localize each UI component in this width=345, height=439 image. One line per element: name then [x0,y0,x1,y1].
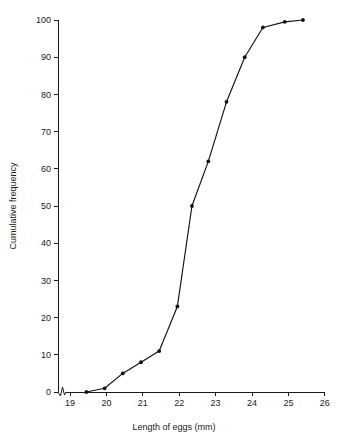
data-point [175,305,179,309]
chart-plot-area: 0102030405060708090100 1920212223242526 … [0,0,345,439]
y-tick-label-90: 90 [41,52,51,62]
y-tick-label-10: 10 [41,350,51,360]
y-tick-label-100: 100 [36,15,51,25]
data-point [206,159,210,163]
y-tick-label-0: 0 [46,387,51,397]
data-point [243,55,247,59]
data-point [84,390,88,394]
x-tick-label-19: 19 [65,398,75,408]
x-tick-label-24: 24 [247,398,257,408]
y-tick-label-40: 40 [41,238,51,248]
x-axis-ticks: 1920212223242526 [65,392,330,408]
x-tick-label-25: 25 [283,398,293,408]
data-point [283,20,287,24]
x-tick-label-20: 20 [101,398,111,408]
x-tick-label-23: 23 [211,398,221,408]
data-point [190,204,194,208]
x-axis-break-icon [58,387,66,396]
y-axis-ticks: 0102030405060708090100 [36,15,58,397]
data-point [139,360,143,364]
data-point [157,349,161,353]
data-point [103,386,107,390]
data-point [225,100,229,104]
y-tick-label-80: 80 [41,90,51,100]
x-tick-label-22: 22 [174,398,184,408]
y-axis-title: Cumulative frequency [8,162,18,250]
cumulative-frequency-chart: 0102030405060708090100 1920212223242526 … [0,0,345,439]
data-series-points [84,18,304,394]
data-series-line [86,20,303,392]
data-point [261,26,265,30]
y-tick-label-50: 50 [41,201,51,211]
data-point [301,18,305,22]
x-tick-label-21: 21 [138,398,148,408]
y-tick-label-60: 60 [41,164,51,174]
x-axis-title: Length of eggs (mm) [132,422,215,432]
x-tick-label-26: 26 [320,398,330,408]
y-tick-label-30: 30 [41,276,51,286]
y-tick-label-70: 70 [41,127,51,137]
data-point [121,372,125,376]
y-tick-label-20: 20 [41,313,51,323]
